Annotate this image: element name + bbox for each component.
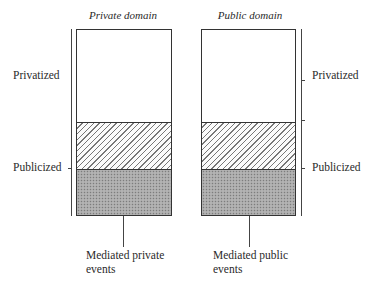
caption-private-line1: Mediated private (86, 248, 164, 262)
label-publicized-left: Publicized (13, 161, 62, 173)
left-bracket-line (71, 29, 72, 216)
private-domain-box (76, 29, 172, 216)
label-privatized-right: Privatized (312, 69, 359, 81)
caption-public-line2: events (213, 262, 288, 276)
title-private-domain: Private domain (63, 9, 183, 21)
right-bracket-tick-mid (302, 120, 305, 121)
caption-private-line2: events (86, 262, 164, 276)
private-hatched-segment (77, 122, 171, 171)
right-bracket-line (301, 29, 302, 216)
public-hatched-segment (202, 122, 295, 171)
right-bracket-tick-bottom (302, 168, 305, 169)
caption-mediated-public-events: Mediated public events (213, 248, 288, 276)
public-domain-box (201, 29, 296, 216)
private-stippled-segment (77, 169, 171, 215)
left-bracket-tick (68, 168, 71, 169)
title-public-domain: Public domain (190, 9, 310, 21)
label-publicized-right: Publicized (312, 161, 361, 173)
private-stem-line (123, 216, 124, 247)
label-privatized-left: Privatized (13, 69, 60, 81)
caption-mediated-private-events: Mediated private events (86, 248, 164, 276)
caption-public-line1: Mediated public (213, 248, 288, 262)
public-stem-line (249, 216, 250, 247)
right-bracket-tick-top (302, 80, 305, 81)
public-stippled-segment (202, 169, 295, 215)
